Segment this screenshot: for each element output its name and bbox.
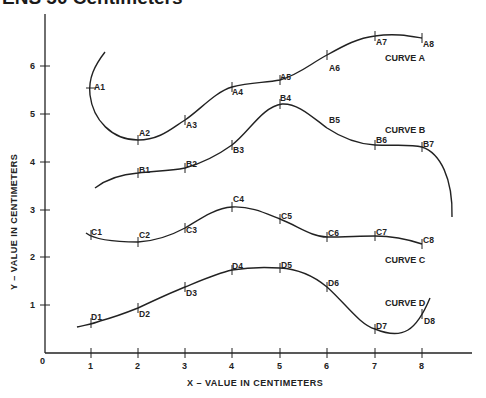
point-label-c3: C3 <box>186 225 197 235</box>
y-tick-label: 2 <box>30 252 35 262</box>
point-label-a7: A7 <box>376 37 387 47</box>
point-label-a4: A4 <box>232 87 243 97</box>
y-tick-label: 6 <box>30 61 35 71</box>
point-label-a2: A2 <box>139 128 150 138</box>
y-axis-title: Y – VALUE IN CENTIMETERS <box>9 154 19 290</box>
x-tick-label: 1 <box>88 361 93 371</box>
x-tick-label: 6 <box>324 361 329 371</box>
point-label-d1: D1 <box>91 312 102 322</box>
point-label-b6: B6 <box>376 135 387 145</box>
point-label-a8: A8 <box>423 39 434 49</box>
curve-a-label: CURVE A <box>385 53 426 63</box>
point-label-d6: D6 <box>328 278 339 288</box>
point-label-a1: A1 <box>94 82 105 92</box>
point-label-a3: A3 <box>186 120 197 130</box>
point-label-c5: C5 <box>281 211 292 221</box>
point-label-c6: C6 <box>328 228 339 238</box>
point-label-c8: C8 <box>423 235 434 245</box>
point-label-d7: D7 <box>376 321 387 331</box>
point-label-c4: C4 <box>233 194 244 204</box>
x-tick-label: 0 <box>40 356 45 366</box>
point-label-a6: A6 <box>329 63 340 73</box>
curve-c-line <box>86 207 422 244</box>
point-label-d5: D5 <box>281 260 292 270</box>
curve-a-line <box>90 35 422 140</box>
y-tick-label: 5 <box>30 109 35 119</box>
y-tick-label: 4 <box>30 157 35 167</box>
point-label-d8: D8 <box>424 316 435 326</box>
x-tick-label: 5 <box>277 361 282 371</box>
point-label-b2: B2 <box>186 159 197 169</box>
x-tick-label: 7 <box>372 361 377 371</box>
point-label-b5: B5 <box>329 115 340 125</box>
point-label-b3: B3 <box>233 145 244 155</box>
y-tick-label: 1 <box>30 300 35 310</box>
x-tick-label: 3 <box>182 361 187 371</box>
curve-c-label: CURVE C <box>385 255 426 265</box>
plot-area: 1 2 3 4 5 6 0 1 2 3 4 5 6 7 8 X – VALUE … <box>0 0 486 398</box>
point-label-b1: B1 <box>139 165 150 175</box>
point-label-b4: B4 <box>280 93 291 103</box>
x-tick-label: 2 <box>135 361 140 371</box>
x-tick-label: 4 <box>229 361 234 371</box>
x-tick-label: 8 <box>419 361 424 371</box>
point-label-c2: C2 <box>139 230 150 240</box>
curve-b-line <box>95 104 452 217</box>
point-label-d2: D2 <box>139 309 150 319</box>
point-label-b7: B7 <box>423 139 434 149</box>
curve-b-label: CURVE B <box>385 125 426 135</box>
point-label-d3: D3 <box>186 288 197 298</box>
point-label-c7: C7 <box>376 227 387 237</box>
x-axis-title: X – VALUE IN CENTIMETERS <box>187 378 323 388</box>
point-label-a5: A5 <box>280 72 291 82</box>
point-markers <box>86 31 422 334</box>
y-tick-label: 3 <box>30 205 35 215</box>
curve-d-label: CURVE D <box>385 298 426 308</box>
point-label-c1: C1 <box>91 227 102 237</box>
point-label-d4: D4 <box>232 261 243 271</box>
